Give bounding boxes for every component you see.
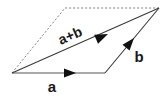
- vector-sum-label: a+b: [56, 23, 85, 48]
- vector-diagram-canvas: a b a+b: [0, 0, 167, 96]
- dashed-left-edge: [12, 8, 65, 73]
- vector-a-arrowhead: [64, 68, 76, 77]
- vector-sum-arrowhead: [94, 30, 110, 44]
- vector-addition-svg: a b a+b: [0, 0, 167, 96]
- vector-b-label: b: [134, 48, 143, 65]
- vector-labels-group: a b a+b: [48, 23, 144, 95]
- vector-a-label: a: [48, 78, 57, 95]
